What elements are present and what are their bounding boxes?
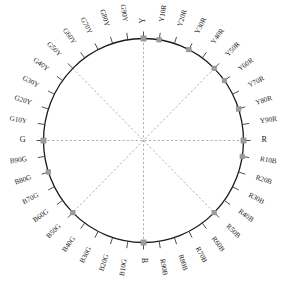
hue-label-r50b: R50B [224, 222, 242, 240]
hue-label-r30b: R30B [247, 191, 266, 206]
hue-label-r80b: R80B [176, 253, 189, 272]
hue-tick-b60g [57, 200, 63, 204]
hue-marker-b80g [46, 170, 51, 175]
hue-label-g80y: G80Y [98, 8, 111, 28]
hue-tick-g90y [127, 33, 128, 40]
hue-label-y70r: Y70R [247, 74, 266, 89]
hue-label-g30y: G30Y [21, 74, 41, 89]
hue-label-y80r: Y80R [254, 94, 273, 107]
hue-label-y30r: Y30R [193, 16, 208, 35]
hue-label-g40y: G40Y [32, 56, 52, 73]
hue-tick-b30g [95, 231, 98, 237]
hue-label-b30g: B30G [78, 245, 93, 264]
hue-label-y40r: Y40R [209, 27, 226, 46]
hue-tick-b40g [81, 223, 85, 229]
hue-tick-g60y [81, 52, 85, 58]
hue-tick-g70y [95, 43, 98, 49]
hue-tick-r30b [233, 187, 239, 190]
hue-tick-b90g [38, 156, 45, 157]
hue-tick-r40b [224, 200, 230, 204]
hue-tick-y70r [233, 91, 239, 94]
hue-label-r: R [262, 135, 268, 144]
hue-tick-r90b [159, 241, 160, 248]
hue-label-b50g: B50G [45, 222, 63, 240]
hue-label-r40b: R40B [237, 208, 255, 224]
hue-label-y50r: Y50R [224, 40, 242, 58]
hue-label-y: Y [138, 17, 147, 23]
hue-label-r60b: R60B [210, 235, 226, 253]
hue-tick-r70b [189, 231, 192, 237]
hue-label-g50y: G50Y [45, 40, 64, 59]
ncs-hue-circle-figure: YY10RY20RY30RY40RY50RY60RY70RY80RY90RRR1… [0, 0, 293, 287]
hue-tick-r60b [202, 223, 206, 229]
hue-label-g10y: G10Y [9, 115, 28, 126]
hue-label-b10g: B10G [118, 258, 129, 276]
hue-label-y20r: Y20R [176, 8, 189, 27]
hue-marker-y80r [236, 107, 241, 112]
hue-circle-canvas: YY10RY20RY30RY40RY50RY60RY70RY80RY90RRR1… [0, 0, 293, 287]
hue-label-g: G [20, 135, 26, 144]
hue-label-b80g: B80G [14, 173, 33, 186]
hue-label-r20b: R20B [255, 173, 274, 186]
hue-tick-b70g [48, 187, 54, 190]
hue-marker-g [41, 138, 46, 143]
hue-label-r70b: R70B [194, 245, 209, 264]
hue-label-g20y: G20Y [13, 94, 33, 107]
hue-tick-g10y [38, 123, 45, 124]
hue-label-g70y: G70Y [79, 16, 94, 36]
hue-tick-r80b [174, 238, 176, 245]
hue-tick-g80y [110, 37, 112, 44]
hue-tick-g20y [42, 107, 49, 109]
hue-marker-y50r [212, 66, 217, 71]
hue-marker-b50g [70, 210, 75, 215]
hue-marker-b [141, 240, 146, 245]
hue-label-y10r: Y10R [158, 4, 169, 22]
hue-tick-y40r [202, 52, 206, 58]
hue-label-g60y: G60Y [61, 27, 78, 47]
hue-label-b70g: B70G [21, 191, 40, 206]
hue-marker-y10r [157, 37, 162, 42]
hue-marker-r50b [212, 210, 217, 215]
hue-label-b90g: B90G [9, 155, 27, 166]
hue-label-b40g: B40G [61, 235, 78, 254]
hue-marker-y60r [222, 78, 227, 83]
hue-label-g90y: G90Y [119, 4, 130, 23]
hue-label-b20g: B20G [98, 253, 111, 272]
hue-label-r90b: R90B [158, 258, 169, 276]
hue-tick-b20g [110, 238, 112, 245]
hue-label-r10b: R10B [259, 155, 277, 166]
hue-tick-g30y [48, 91, 54, 94]
hue-marker-y [141, 36, 146, 41]
hue-tick-y90r [242, 123, 249, 124]
hue-label-b: B [140, 258, 149, 263]
hue-label-y60r: Y60R [236, 56, 255, 73]
hue-label-y90r: Y90R [259, 115, 277, 126]
hue-marker-r [241, 138, 246, 143]
hue-label-b60g: B60G [32, 208, 51, 225]
hue-marker-r10b [240, 154, 245, 159]
hue-tick-g40y [57, 76, 63, 80]
hue-tick-g50y [68, 63, 73, 68]
hue-tick-b10g [127, 241, 128, 248]
hue-marker-y30r [187, 47, 192, 52]
hue-tick-y20r [174, 37, 176, 44]
hue-tick-r20b [239, 172, 246, 174]
